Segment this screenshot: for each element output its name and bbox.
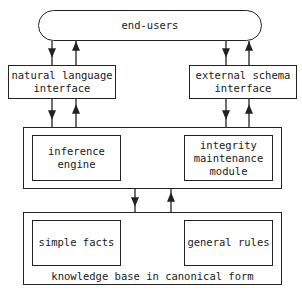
arrowhead-down-icon [49,49,55,56]
connection-arrows [0,0,302,294]
arrowhead-up-icon [73,43,79,50]
